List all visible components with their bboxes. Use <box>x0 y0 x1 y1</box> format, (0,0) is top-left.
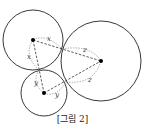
label-z-top: z <box>82 46 87 54</box>
label-x-left: x <box>27 53 31 61</box>
center-triangle <box>33 40 101 93</box>
label-z-bottom: z <box>87 76 92 84</box>
three-tangent-circles-diagram: x x y y z z <box>0 0 145 130</box>
label-y-bottom: y <box>54 91 60 99</box>
radius-arcs <box>29 38 101 94</box>
label-x-top: x <box>47 35 51 43</box>
center-dot-top-left <box>31 38 35 42</box>
center-dot-right <box>99 59 103 63</box>
label-y-left: y <box>33 79 39 87</box>
center-dot-bottom <box>42 91 46 95</box>
figure-caption: [그림 2] <box>0 112 145 125</box>
